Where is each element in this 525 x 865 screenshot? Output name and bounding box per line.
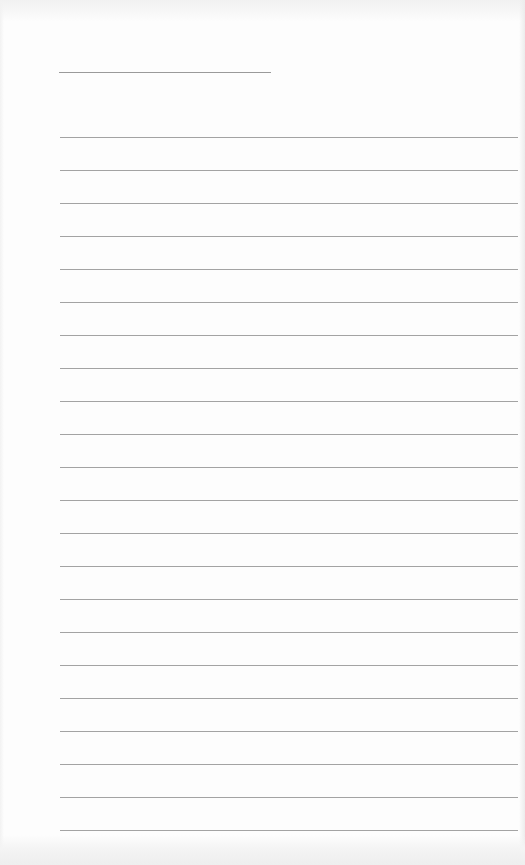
ruled-line[interactable]: [60, 368, 518, 369]
ruled-line[interactable]: [60, 302, 518, 303]
ruled-line[interactable]: [60, 467, 518, 468]
ruled-line[interactable]: [60, 830, 518, 831]
ruled-line[interactable]: [60, 500, 518, 501]
ruled-line[interactable]: [60, 203, 518, 204]
title-line[interactable]: [59, 72, 271, 73]
ruled-line[interactable]: [60, 137, 518, 138]
ruled-line[interactable]: [60, 665, 518, 666]
ruled-line[interactable]: [60, 434, 518, 435]
page-top-edge: [0, 0, 525, 22]
ruled-line[interactable]: [60, 335, 518, 336]
page-right-edge: [519, 0, 525, 865]
ruled-line[interactable]: [60, 599, 518, 600]
ruled-line[interactable]: [60, 731, 518, 732]
ruled-line[interactable]: [60, 797, 518, 798]
ruled-line[interactable]: [60, 632, 518, 633]
ruled-line[interactable]: [60, 170, 518, 171]
ruled-line[interactable]: [60, 764, 518, 765]
ruled-line[interactable]: [60, 269, 518, 270]
page-left-edge: [0, 0, 4, 865]
ruled-line[interactable]: [60, 533, 518, 534]
ruled-line[interactable]: [60, 566, 518, 567]
notepad-page: [0, 0, 525, 865]
page-bottom-edge: [0, 835, 525, 865]
ruled-line[interactable]: [60, 698, 518, 699]
ruled-line[interactable]: [60, 236, 518, 237]
ruled-line[interactable]: [60, 401, 518, 402]
